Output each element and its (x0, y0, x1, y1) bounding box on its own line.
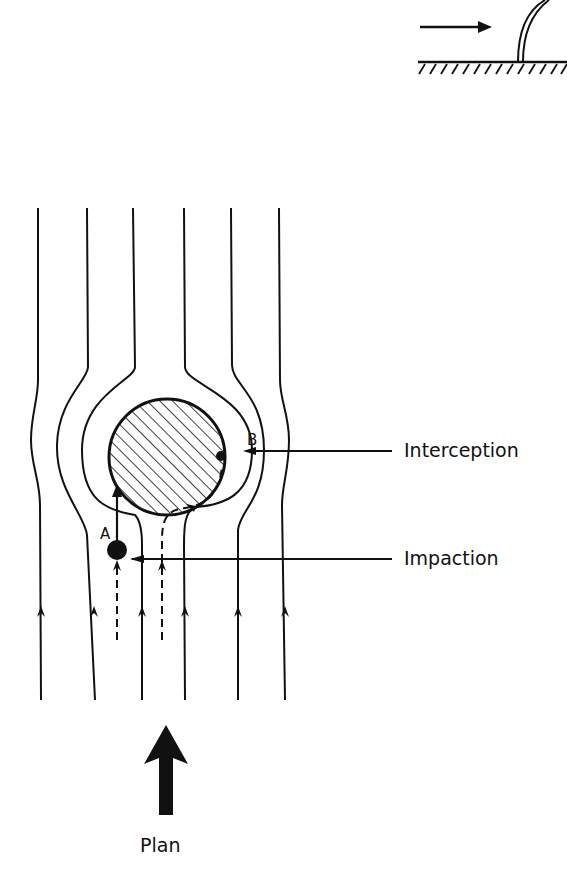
leader-interception (243, 447, 392, 455)
side-view-inset (418, 0, 567, 74)
particle-a (107, 540, 127, 560)
point-b-label: B (247, 431, 257, 449)
impaction-label: Impaction (404, 547, 499, 569)
leader-impaction (130, 555, 392, 563)
collector-side-icon (518, 0, 545, 62)
plan-label: Plan (140, 834, 180, 856)
streamline-2 (57, 208, 95, 700)
particle-b (216, 451, 226, 461)
streamline-5 (231, 208, 264, 700)
collector-circle (109, 399, 225, 515)
diagram-canvas: Interception Impaction B A Plan (0, 0, 567, 895)
plan-arrow-icon (144, 725, 188, 815)
streamline-1 (31, 208, 41, 700)
point-a-label: A (100, 525, 111, 543)
streamline-6 (279, 208, 289, 700)
ground-hatch (419, 64, 567, 74)
interception-label: Interception (404, 439, 519, 461)
